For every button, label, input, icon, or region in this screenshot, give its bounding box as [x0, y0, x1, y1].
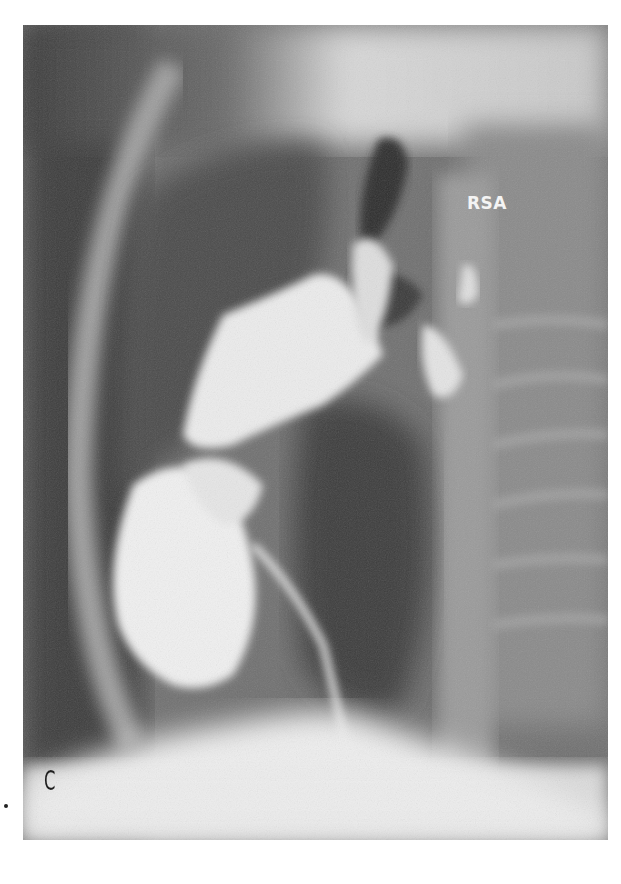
- panel-label: C: [44, 766, 55, 796]
- speck-mark: [4, 804, 8, 808]
- rsa-annotation-label: RSA: [467, 193, 507, 213]
- xray-image-content: [23, 25, 608, 840]
- xray-angiogram-image: [23, 25, 608, 840]
